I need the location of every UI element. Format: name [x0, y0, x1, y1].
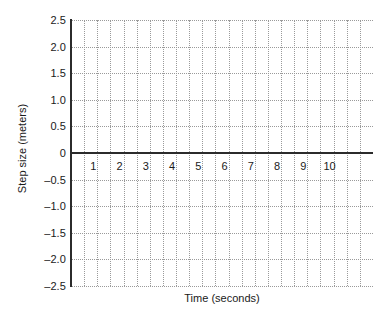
x-axis-tick-label: 4 [169, 161, 175, 172]
gridline-horizontal [71, 100, 373, 101]
y-axis-tick-label: 2.5 [26, 15, 66, 26]
gridline-horizontal [71, 180, 373, 181]
y-axis-tick-label: –2.5 [26, 281, 66, 292]
x-axis-tick-label: 3 [143, 161, 149, 172]
x-axis-tick-label: 8 [274, 161, 280, 172]
x-axis-tick-label: 7 [248, 161, 254, 172]
gridline-horizontal [71, 47, 373, 48]
x-axis-title: Time (seconds) [71, 292, 373, 305]
gridline-horizontal [71, 233, 373, 234]
x-axis-tick-label: 6 [222, 161, 228, 172]
y-axis-tick-labels: 2.52.01.51.00.50–0.5–1.0–1.5–2.0–2.5 [22, 0, 66, 318]
y-axis-tick-label: –0.5 [26, 175, 66, 186]
y-axis-tick-label: –2.0 [26, 254, 66, 265]
x-axis-tick-label: 2 [116, 161, 122, 172]
gridline-horizontal [71, 73, 373, 74]
y-axis-tick-label: –1.0 [26, 201, 66, 212]
chart-container: 2.52.01.51.00.50–0.5–1.0–1.5–2.0–2.5 123… [0, 0, 384, 318]
gridline-horizontal [71, 206, 373, 207]
y-axis-tick-label: 0.5 [26, 121, 66, 132]
gridline-horizontal [71, 20, 373, 21]
y-axis-tick-label: 1.5 [26, 68, 66, 79]
y-axis-tick-label: 1.0 [26, 95, 66, 106]
y-axis-title-wrapper: Step size (meters) [0, 0, 22, 318]
y-axis-tick-label: –1.5 [26, 228, 66, 239]
x-axis-tick-label: 5 [195, 161, 201, 172]
y-axis-title: Step size (meters) [16, 69, 29, 229]
x-axis-tick-label: 9 [300, 161, 306, 172]
gridline-horizontal [71, 126, 373, 127]
y-axis-tick-label: 2.0 [26, 42, 66, 53]
x-axis-tick-label: 10 [323, 161, 335, 172]
x-axis-tick-labels: 12345678910 [71, 161, 373, 177]
gridline-horizontal [71, 259, 373, 260]
x-axis-zero-line [70, 152, 373, 154]
gridline-horizontal [71, 286, 373, 287]
x-axis-tick-label: 1 [90, 161, 96, 172]
y-axis-tick-label: 0 [26, 148, 66, 159]
